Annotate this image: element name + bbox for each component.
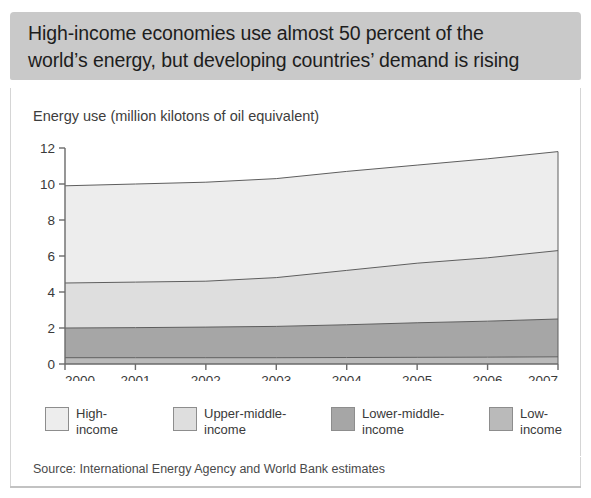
source-divider: [11, 456, 582, 457]
chart-axis-title: Energy use (million kilotons of oil equi…: [33, 108, 319, 124]
legend-label-line2: income: [76, 422, 118, 437]
title-line-1: High-income economies use almost 50 perc…: [28, 20, 563, 47]
y-tick-label: 2: [47, 321, 55, 336]
legend-label-line2: income: [362, 422, 404, 437]
title-line-2: world’s energy, but developing countries…: [28, 47, 563, 74]
source-note: Source: International Energy Agency and …: [33, 462, 385, 476]
legend-label-lower-middle-income: Lower-middle-income: [362, 406, 444, 437]
legend-label-line1: Lower-middle-: [362, 406, 444, 421]
x-tick-label: 2000: [65, 373, 95, 381]
card-bottom-edge: [10, 486, 581, 488]
legend-swatch-high-income: [45, 407, 69, 431]
y-tick-label: 6: [47, 249, 55, 264]
x-tick-label: 2001: [120, 373, 150, 381]
legend-label-line1: High-: [76, 406, 107, 421]
x-tick-label: 2003: [261, 373, 291, 381]
x-tick-label: 2006: [473, 373, 503, 381]
chart-legend: High-income Upper-middle-income Lower-mi…: [31, 406, 576, 456]
chart-plot-area: 0246810122000200120022003200420052006200…: [11, 136, 582, 381]
y-tick-label: 10: [40, 177, 55, 192]
legend-item-low-income[interactable]: Low-income: [489, 406, 562, 437]
y-tick-label: 12: [40, 141, 55, 156]
legend-label-line1: Upper-middle-: [204, 406, 286, 421]
x-tick-label: 2004: [332, 373, 363, 381]
stacked-area-chart: 0246810122000200120022003200420052006200…: [11, 136, 582, 381]
title-banner: High-income economies use almost 50 perc…: [10, 12, 581, 80]
legend-item-upper-middle-income[interactable]: Upper-middle-income: [173, 406, 286, 437]
y-tick-label: 0: [47, 357, 55, 372]
legend-swatch-upper-middle-income: [173, 407, 197, 431]
figure-root: High-income economies use almost 50 perc…: [0, 0, 591, 498]
x-tick-label: 2007: [528, 373, 558, 381]
legend-item-lower-middle-income[interactable]: Lower-middle-income: [331, 406, 444, 437]
legend-item-high-income[interactable]: High-income: [45, 406, 118, 437]
legend-label-line2: income: [204, 422, 246, 437]
y-tick-label: 4: [47, 285, 55, 300]
legend-label-high-income: High-income: [76, 406, 118, 437]
x-tick-label: 2005: [402, 373, 432, 381]
y-tick-label: 8: [47, 213, 55, 228]
legend-swatch-lower-middle-income: [331, 407, 355, 431]
legend-label-low-income: Low-income: [520, 406, 562, 437]
legend-label-line1: Low-: [520, 406, 548, 421]
x-tick-label: 2002: [191, 373, 221, 381]
figure-card: Energy use (million kilotons of oil equi…: [10, 88, 581, 486]
legend-label-upper-middle-income: Upper-middle-income: [204, 406, 286, 437]
legend-label-line2: income: [520, 422, 562, 437]
legend-swatch-low-income: [489, 407, 513, 431]
